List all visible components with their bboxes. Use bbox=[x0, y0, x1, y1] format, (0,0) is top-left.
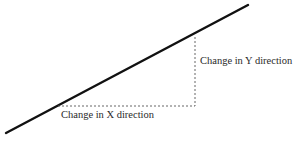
y-change-label: Change in Y direction bbox=[200, 55, 292, 66]
x-change-label: Change in X direction bbox=[61, 109, 154, 120]
